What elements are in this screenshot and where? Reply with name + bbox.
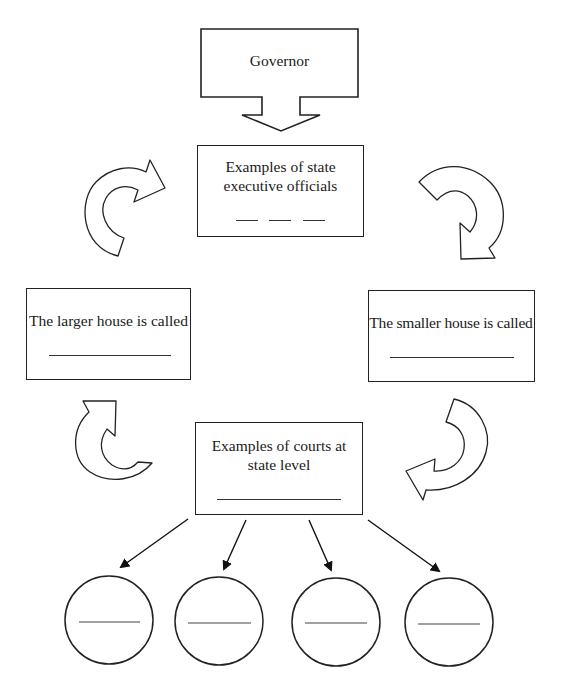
executive-official-blank-3[interactable] <box>303 220 325 221</box>
court-circle-4 <box>405 578 493 666</box>
executive-official-blank-2[interactable] <box>269 220 291 221</box>
smaller-house-label: The smaller house is called <box>366 313 536 332</box>
curved-arrow-bottomright-icon <box>406 399 488 500</box>
arrow-to-court-2 <box>224 520 246 569</box>
larger-house-label: The larger house is called <box>26 311 191 330</box>
arrow-to-court-1 <box>121 519 188 567</box>
executive-officials-label-1: Examples of state <box>197 157 364 176</box>
court-circle-2 <box>175 577 263 665</box>
court-circle-1 <box>65 576 153 664</box>
state-courts-label-1: Examples of courts at <box>195 436 363 455</box>
larger-house-blank[interactable] <box>49 355 171 356</box>
arrow-to-court-3 <box>309 520 331 570</box>
court-circle-3 <box>292 578 380 666</box>
curved-arrow-topright-icon <box>419 167 503 259</box>
arrow-to-court-4 <box>368 520 439 571</box>
governor-label: Governor <box>201 51 358 70</box>
executive-officials-label-2: executive officials <box>197 176 364 195</box>
governor-callout-shape <box>201 29 358 131</box>
larger-house-box <box>26 288 191 380</box>
curved-arrow-topleft-icon <box>85 160 165 256</box>
curved-arrow-bottomleft-icon <box>76 401 152 479</box>
smaller-house-box <box>368 290 535 382</box>
smaller-house-blank[interactable] <box>390 357 514 358</box>
executive-official-blank-1[interactable] <box>236 220 258 221</box>
state-courts-blank[interactable] <box>217 499 341 500</box>
state-courts-label-2: state level <box>195 455 363 474</box>
